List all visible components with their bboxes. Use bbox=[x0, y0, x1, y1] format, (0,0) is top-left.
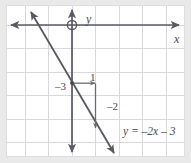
plot-area: x y –3 1 –2 y = –2x – 3 bbox=[7, 6, 184, 156]
y-intercept-label: –3 bbox=[55, 81, 66, 92]
equation-label: y = –2x – 3 bbox=[123, 126, 175, 138]
y-intercept-point bbox=[70, 81, 74, 85]
rise-label: –2 bbox=[107, 101, 118, 112]
run-label: 1 bbox=[90, 72, 96, 83]
x-axis-label: x bbox=[174, 33, 179, 45]
figure-coordinate-plane: x y –3 1 –2 y = –2x – 3 bbox=[0, 0, 191, 163]
y-axis-label: y bbox=[86, 13, 91, 25]
